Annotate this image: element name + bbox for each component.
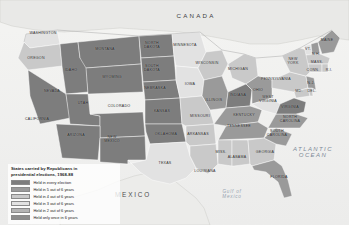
state-rhode-island bbox=[322, 64, 328, 72]
state-north-dakota bbox=[139, 34, 174, 58]
state-kansas bbox=[145, 98, 182, 124]
legend-row: Held in 4 out of 6 years bbox=[11, 193, 118, 199]
thematic-map-figure: CANADAMEXICOATLANTIC OCEANGulf of Mexico… bbox=[0, 0, 349, 225]
legend-label: Held only once in 6 years bbox=[34, 215, 78, 220]
legend-row: Held only once in 6 years bbox=[11, 214, 118, 220]
legend-row: Held in every election bbox=[11, 179, 118, 185]
state-alabama bbox=[232, 140, 250, 166]
legend-swatch bbox=[11, 208, 30, 214]
legend-swatch bbox=[11, 194, 30, 200]
state-arkansas bbox=[186, 124, 216, 146]
legend-row: Held in 2 out of 6 years bbox=[11, 207, 118, 213]
legend-swatch bbox=[11, 180, 30, 186]
legend-label: Held in 5 out of 6 years bbox=[34, 187, 75, 192]
state-nebraska bbox=[143, 80, 180, 100]
legend-swatch bbox=[11, 187, 30, 193]
legend-label: Held in 4 out of 6 years bbox=[34, 194, 75, 199]
state-oklahoma bbox=[145, 124, 186, 144]
legend-row: Held in 3 out of 6 years bbox=[11, 200, 118, 206]
state-wyoming bbox=[86, 64, 143, 94]
state-arizona bbox=[56, 124, 100, 160]
legend-label: Held in 2 out of 6 years bbox=[34, 208, 75, 213]
legend-swatch bbox=[11, 215, 30, 221]
state-new-mexico bbox=[100, 136, 146, 164]
legend-label: Held in 3 out of 6 years bbox=[34, 201, 75, 206]
legend-title: States carried by Republicans in preside… bbox=[11, 166, 118, 177]
legend-row: Held in 5 out of 6 years bbox=[11, 186, 118, 192]
state-south-dakota bbox=[141, 56, 176, 82]
legend-label: Held in every election bbox=[34, 180, 72, 185]
state-connecticut bbox=[308, 64, 322, 72]
legend-swatch bbox=[11, 201, 30, 207]
state-mississippi bbox=[218, 140, 232, 166]
map-legend: States carried by Republicans in preside… bbox=[8, 164, 120, 224]
legend-row-list: Held in every electionHeld in 5 out of 6… bbox=[11, 179, 118, 220]
